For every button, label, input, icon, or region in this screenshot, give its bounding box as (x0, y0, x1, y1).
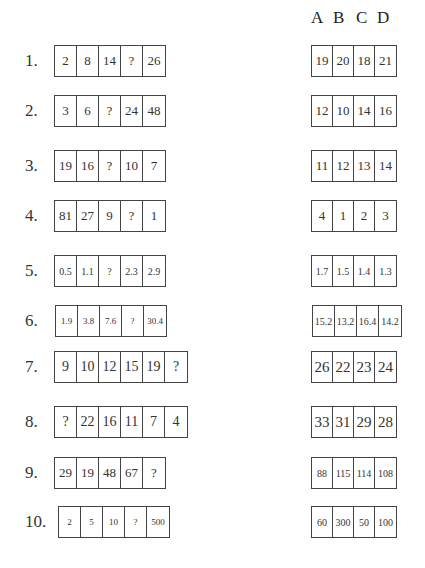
sequence-cell: 12 (99, 352, 121, 382)
sequence-grid: 2510?500 (58, 506, 170, 538)
sequence-cell: 22 (77, 407, 99, 437)
answer-option-d[interactable]: 108 (375, 458, 396, 488)
sequence-cell: 10 (121, 151, 143, 181)
sequence-cell: 1.1 (77, 256, 99, 286)
sequence-cell: 24 (121, 96, 143, 126)
question-number: 8. (25, 412, 38, 432)
sequence-cell: 27 (77, 201, 99, 231)
sequence-cell: 7 (143, 407, 165, 437)
sequence-cell: 8 (77, 46, 99, 76)
sequence-cell: 2 (59, 507, 81, 537)
sequence-cell: 7 (143, 151, 165, 181)
answer-option-a[interactable]: 26 (312, 352, 333, 382)
answer-option-b[interactable]: 300 (333, 507, 354, 537)
answer-option-c[interactable]: 18 (354, 46, 375, 76)
answer-option-c[interactable]: 14 (354, 96, 375, 126)
answer-option-d[interactable]: 21 (375, 46, 396, 76)
answer-option-b[interactable]: 10 (333, 96, 354, 126)
answer-option-c[interactable]: 16.4 (357, 306, 379, 336)
answer-option-a[interactable]: 33 (312, 407, 333, 437)
sequence-cell: 15 (121, 352, 143, 382)
sequence-cell: 2.9 (143, 256, 165, 286)
missing-value-cell: ? (121, 201, 143, 231)
answer-option-b[interactable]: 12 (333, 151, 354, 181)
question-number: 1. (25, 51, 38, 71)
sequence-cell: 1 (143, 201, 165, 231)
sequence-cell: 4 (165, 407, 187, 437)
sequence-cell: 30.4 (144, 306, 166, 336)
answer-option-b[interactable]: 1 (333, 201, 354, 231)
option-header-a: A (311, 8, 323, 28)
answer-option-a[interactable]: 88 (312, 458, 333, 488)
answer-option-d[interactable]: 28 (375, 407, 396, 437)
question-number: 6. (25, 311, 38, 331)
sequence-cell: 48 (99, 458, 121, 488)
answer-option-a[interactable]: 12 (312, 96, 333, 126)
answer-option-d[interactable]: 24 (375, 352, 396, 382)
missing-value-cell: ? (165, 352, 187, 382)
answer-option-c[interactable]: 50 (354, 507, 375, 537)
answer-option-a[interactable]: 60 (312, 507, 333, 537)
missing-value-cell: ? (99, 96, 121, 126)
option-header-c: C (356, 8, 367, 28)
answer-option-c[interactable]: 114 (354, 458, 375, 488)
sequence-grid: 81279?1 (54, 200, 166, 232)
answer-options-grid: 15.213.216.414.2 (312, 305, 402, 337)
missing-value-cell: ? (99, 151, 121, 181)
answer-option-b[interactable]: 22 (333, 352, 354, 382)
sequence-cell: 5 (81, 507, 103, 537)
answer-options-grid: 4123 (311, 200, 397, 232)
sequence-cell: 19 (77, 458, 99, 488)
sequence-grid: 910121519? (54, 351, 188, 383)
answer-option-c[interactable]: 2 (354, 201, 375, 231)
sequence-cell: 500 (147, 507, 169, 537)
sequence-grid: 1916?107 (54, 150, 166, 182)
sequence-cell: 9 (55, 352, 77, 382)
sequence-cell: 81 (55, 201, 77, 231)
answer-option-c[interactable]: 23 (354, 352, 375, 382)
answer-option-c[interactable]: 1.4 (354, 256, 375, 286)
answer-options-grid: 33312928 (311, 406, 397, 438)
missing-value-cell: ? (99, 256, 121, 286)
answer-option-a[interactable]: 11 (312, 151, 333, 181)
sequence-cell: 3.8 (78, 306, 100, 336)
answer-option-b[interactable]: 1.5 (333, 256, 354, 286)
answer-option-b[interactable]: 20 (333, 46, 354, 76)
missing-value-cell: ? (143, 458, 165, 488)
missing-value-cell: ? (125, 507, 147, 537)
answer-option-c[interactable]: 29 (354, 407, 375, 437)
missing-value-cell: ? (121, 46, 143, 76)
answer-options-grid: 6030050100 (311, 506, 397, 538)
missing-value-cell: ? (122, 306, 144, 336)
answer-option-d[interactable]: 14.2 (379, 306, 401, 336)
answer-option-d[interactable]: 16 (375, 96, 396, 126)
option-header-b: B (333, 8, 344, 28)
answer-option-a[interactable]: 4 (312, 201, 333, 231)
sequence-grid: 29194867? (54, 457, 166, 489)
question-number: 9. (25, 463, 38, 483)
question-number: 3. (25, 156, 38, 176)
answer-option-d[interactable]: 14 (375, 151, 396, 181)
sequence-cell: 14 (99, 46, 121, 76)
answer-option-c[interactable]: 13 (354, 151, 375, 181)
answer-option-b[interactable]: 115 (333, 458, 354, 488)
sequence-cell: 19 (55, 151, 77, 181)
answer-option-a[interactable]: 1.7 (312, 256, 333, 286)
sequence-grid: 2814?26 (54, 45, 166, 77)
sequence-cell: 10 (77, 352, 99, 382)
answer-option-a[interactable]: 19 (312, 46, 333, 76)
answer-options-grid: 19201821 (311, 45, 397, 77)
answer-option-d[interactable]: 100 (375, 507, 396, 537)
answer-option-d[interactable]: 1.3 (375, 256, 396, 286)
answer-options-grid: 11121314 (311, 150, 397, 182)
answer-option-b[interactable]: 13.2 (335, 306, 357, 336)
answer-option-d[interactable]: 3 (375, 201, 396, 231)
sequence-cell: 1.9 (56, 306, 78, 336)
sequence-cell: 10 (103, 507, 125, 537)
answer-option-a[interactable]: 15.2 (313, 306, 335, 336)
sequence-cell: 29 (55, 458, 77, 488)
answer-option-b[interactable]: 31 (333, 407, 354, 437)
sequence-cell: 16 (77, 151, 99, 181)
option-header-d: D (377, 8, 389, 28)
answer-options-grid: 26222324 (311, 351, 397, 383)
